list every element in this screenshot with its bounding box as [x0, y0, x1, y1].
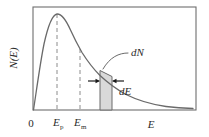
x-axis-label: E [147, 118, 155, 130]
y-axis-label: N(E) [7, 47, 20, 70]
tick-label-ep: E p [52, 116, 64, 131]
energy-distribution-figure: N(E) E 0 E p E m dN dE [0, 0, 209, 137]
dn-leader-line [103, 53, 128, 69]
dn-label: dN [131, 46, 145, 58]
tick-label-ep-base: E [52, 116, 60, 128]
tick-label-em-subscript: m [81, 123, 87, 131]
tick-label-em-base: E [73, 116, 81, 128]
tick-label-ep-subscript: p [60, 123, 64, 131]
de-right-arrow [112, 79, 124, 84]
figure-canvas: N(E) E 0 E p E m dN dE [0, 0, 209, 137]
de-label: dE [119, 85, 132, 97]
origin-label: 0 [28, 117, 34, 129]
de-left-arrow [88, 79, 100, 84]
tick-label-em: E m [73, 116, 87, 131]
